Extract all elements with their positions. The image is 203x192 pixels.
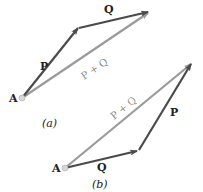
label-q-b: Q bbox=[97, 161, 107, 174]
vector-addition-diagram: P Q P + Q A (a) P Q P + Q A (b) bbox=[0, 0, 203, 192]
label-origin-b: A bbox=[51, 162, 61, 175]
label-p-b: P bbox=[170, 106, 178, 119]
caption-b: (b) bbox=[92, 178, 108, 191]
label-resultant-a: P + Q bbox=[79, 56, 110, 82]
panel-b: P Q P + Q A (b) bbox=[51, 64, 191, 191]
label-origin-a: A bbox=[8, 92, 18, 105]
label-q-a: Q bbox=[104, 3, 114, 16]
caption-a: (a) bbox=[42, 117, 57, 130]
point-a-origin-b bbox=[62, 165, 68, 171]
label-p-a: P bbox=[40, 60, 48, 73]
vector-p-b bbox=[139, 64, 191, 150]
vector-p-a bbox=[22, 28, 78, 98]
point-a-origin bbox=[19, 95, 25, 101]
label-resultant-b: P + Q bbox=[108, 94, 138, 121]
